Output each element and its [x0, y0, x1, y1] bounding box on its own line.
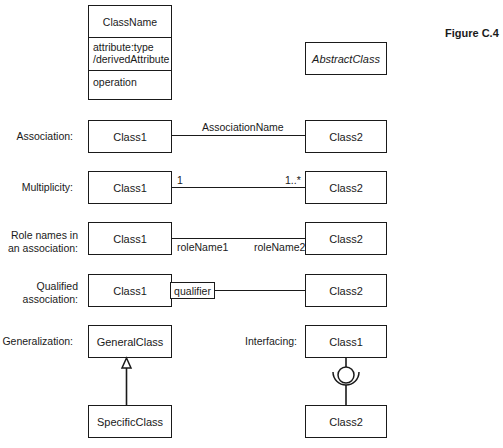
- multiplicity-label: Multiplicity:: [22, 181, 73, 194]
- class-name: Class1: [329, 336, 363, 348]
- role-names-label: Role names in an association:: [8, 229, 78, 255]
- role-names-class1: Class1: [88, 222, 172, 255]
- attributes-section: attribute:type /derivedAttribute: [89, 38, 171, 71]
- left-role-name: roleName1: [177, 241, 228, 253]
- association-label: Association:: [16, 130, 73, 143]
- figure-label: Figure C.4: [445, 27, 499, 39]
- class-name: Class2: [329, 416, 363, 428]
- generalization-arrow-icon: [120, 357, 140, 407]
- class-name: Class2: [329, 182, 363, 194]
- class-name-section: ClassName: [89, 6, 171, 38]
- class-name: Class1: [113, 233, 147, 245]
- class-name: Class1: [113, 131, 147, 143]
- label-line: Role names in: [8, 229, 78, 242]
- operations-section: operation: [89, 71, 171, 88]
- qualified-line: [214, 290, 306, 291]
- left-multiplicity: 1: [177, 174, 183, 186]
- role-names-class2: Class2: [305, 222, 387, 255]
- association-line: [171, 135, 306, 136]
- association-name: AssociationName: [202, 121, 284, 133]
- class-name: Class1: [113, 285, 147, 297]
- association-class1: Class1: [88, 120, 172, 153]
- qualifier-box: qualifier: [170, 282, 215, 299]
- multiplicity-class1: Class1: [88, 171, 172, 204]
- class-name: Class2: [329, 233, 363, 245]
- class-name: Class1: [113, 182, 147, 194]
- interfacing-label: Interfacing:: [245, 335, 297, 348]
- right-role-name: roleName2: [254, 241, 305, 253]
- lollipop-interface-icon: [330, 357, 362, 407]
- operation-1: operation: [93, 76, 137, 88]
- class-name: Class2: [329, 285, 363, 297]
- association-class2: Class2: [305, 120, 387, 153]
- multiplicity-class2: Class2: [305, 171, 387, 204]
- class-name: SpecificClass: [97, 416, 163, 428]
- multiplicity-line: [171, 187, 306, 188]
- qualifier-text: qualifier: [174, 285, 211, 297]
- class-name: GeneralClass: [97, 336, 164, 348]
- label-line: association:: [23, 293, 78, 306]
- generalization-label: Generalization:: [2, 335, 73, 348]
- interface-provider-box: Class1: [305, 325, 387, 358]
- class-name: Class2: [329, 131, 363, 143]
- interface-consumer-box: Class2: [305, 405, 387, 438]
- qualified-label: Qualified association:: [23, 280, 78, 306]
- specific-class-box: SpecificClass: [88, 405, 172, 438]
- class-name: ClassName: [103, 16, 157, 28]
- general-class-box: GeneralClass: [88, 325, 172, 358]
- attribute-2: /derivedAttribute: [93, 53, 171, 65]
- abstract-class-box: AbstractClass: [305, 42, 387, 75]
- qualified-class2: Class2: [305, 274, 387, 307]
- label-line: an association:: [8, 242, 78, 255]
- abstract-class-name: AbstractClass: [312, 53, 380, 65]
- attribute-1: attribute:type: [93, 41, 171, 53]
- qualified-class1: Class1: [88, 274, 172, 307]
- class-notation-box: ClassName attribute:type /derivedAttribu…: [88, 5, 172, 100]
- role-association-line: [171, 238, 306, 239]
- label-line: Qualified: [23, 280, 78, 293]
- right-multiplicity: 1..*: [285, 174, 301, 186]
